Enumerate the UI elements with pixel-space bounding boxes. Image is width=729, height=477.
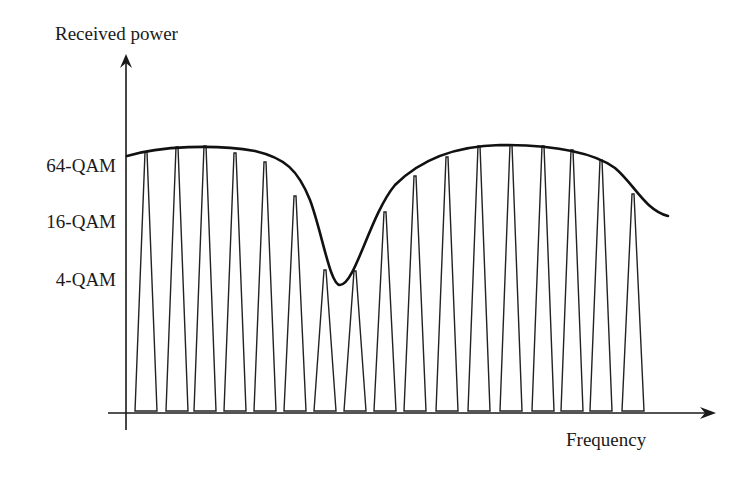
y-axis-label: Received power (55, 23, 179, 44)
subcarrier-triangle (314, 270, 336, 411)
subcarrier-triangle (590, 160, 612, 411)
adaptive-modulation-diagram: Received power Frequency 64-QAM 16-QAM 4… (0, 0, 729, 477)
level-label-16qam: 16-QAM (46, 211, 116, 232)
level-label-4qam: 4-QAM (56, 269, 116, 290)
subcarrier-triangle (500, 145, 522, 411)
subcarrier-triangle (224, 153, 246, 411)
subcarrier-triangle (254, 162, 276, 411)
level-label-64qam: 64-QAM (46, 155, 116, 176)
subcarrier-group (135, 145, 644, 411)
subcarrier-triangle (194, 146, 216, 411)
subcarrier-triangle (622, 194, 644, 411)
subcarrier-triangle (436, 157, 458, 411)
subcarrier-triangle (561, 150, 583, 411)
subcarrier-triangle (404, 176, 426, 411)
subcarrier-triangle (374, 212, 396, 411)
subcarrier-triangle (468, 146, 490, 411)
subcarrier-triangle (166, 147, 188, 411)
subcarrier-triangle (135, 152, 157, 411)
x-axis-label: Frequency (566, 429, 647, 450)
subcarrier-triangle (284, 196, 306, 411)
subcarrier-triangle (344, 271, 366, 411)
subcarrier-triangle (532, 146, 554, 411)
